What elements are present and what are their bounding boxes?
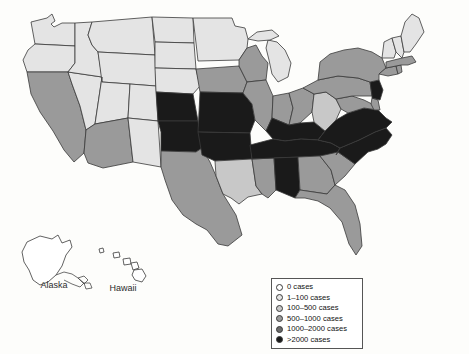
state-HI-2 [113,252,120,258]
hawaii-label: Hawaii [109,283,136,293]
state-ME[interactable] [401,14,424,52]
state-NE[interactable] [155,68,200,94]
map-legend: 0 cases 1–100 cases 100–500 cases 500–10… [271,278,363,349]
state-SD[interactable] [155,42,196,69]
legend-swatch-3 [276,315,283,322]
state-WY[interactable] [98,52,156,86]
legend-swatch-4 [276,326,283,333]
legend-item-2[interactable]: 100–500 cases [276,303,358,314]
legend-label-1: 1–100 cases [287,293,330,304]
legend-label-3: 500–1000 cases [287,314,343,325]
state-KS[interactable] [156,92,198,121]
state-ND[interactable] [152,17,194,43]
state-AK[interactable] [22,235,72,285]
state-WA[interactable] [31,14,75,46]
legend-label-5: >2000 cases [287,335,330,346]
legend-swatch-5 [276,336,283,343]
state-IA[interactable] [196,66,247,93]
state-NJ[interactable] [370,80,383,100]
state-AR[interactable] [198,132,252,161]
state-MT[interactable] [88,17,155,55]
legend-swatch-2 [276,305,283,312]
legend-item-5[interactable]: >2000 cases [276,335,358,346]
legend-item-1[interactable]: 1–100 cases [276,293,358,304]
choropleth-figure: Alaska Hawaii 0 cases 1–100 cases 100–50… [0,0,469,354]
legend-item-4[interactable]: 1000–2000 cases [276,324,358,335]
state-MN[interactable] [193,18,248,61]
state-HI-5 [132,269,146,282]
state-AL[interactable] [274,157,300,198]
state-OR[interactable] [23,44,75,72]
state-OH[interactable] [289,88,314,125]
legend-swatch-0 [276,284,283,291]
state-HI-1[interactable] [99,248,104,253]
legend-label-4: 1000–2000 cases [287,324,347,335]
state-MO[interactable] [198,92,255,133]
legend-label-2: 100–500 cases [287,303,339,314]
state-NM[interactable] [128,118,161,167]
state-CO[interactable] [128,84,158,121]
state-OK[interactable] [158,121,202,152]
legend-item-3[interactable]: 500–1000 cases [276,314,358,325]
state-FL[interactable] [295,185,362,255]
state-HI-3 [123,258,131,265]
state-MI2 [248,30,279,41]
legend-label-0: 0 cases [287,282,313,293]
legend-item-0[interactable]: 0 cases [276,282,358,293]
state-NY[interactable] [318,48,386,82]
us-map: Alaska Hawaii [0,0,469,354]
state-HI-4 [131,262,139,270]
state-MI[interactable] [266,40,291,82]
alaska-island-2 [84,283,92,289]
alaska-label: Alaska [40,280,67,290]
legend-swatch-1 [276,294,283,301]
